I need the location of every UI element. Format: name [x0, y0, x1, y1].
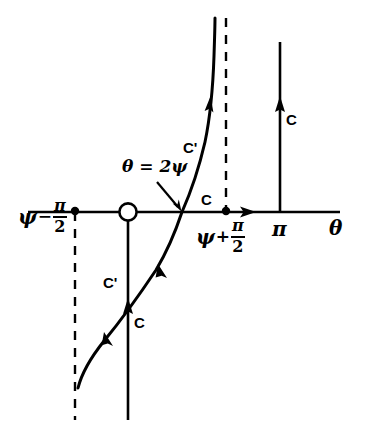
theta-equals-two-psi-label: θ = 2ψ [122, 158, 187, 175]
contour-curve-c-prime-upper [182, 18, 215, 212]
curve-label-c-prime-lower: C' [103, 275, 117, 290]
curve-label-c-middle-line: C [134, 315, 145, 330]
tick-base-psi-minus: ψ [18, 207, 37, 227]
theta-axis-label: θ [329, 218, 342, 238]
tick-label-psi-minus-half-pi: ψ− π 2 [18, 198, 67, 236]
curve-label-c-near-origin: C [201, 192, 212, 207]
tick-label-pi: π [272, 219, 287, 239]
tick-label-psi-plus-half-pi: ψ+ π 2 [196, 218, 245, 256]
pole-open-circle-marker [119, 203, 136, 220]
tick-dot-psi-plus-half-pi [222, 207, 230, 215]
contour-curve-c-prime-lower [78, 212, 182, 388]
tick-operator-minus: − [37, 208, 53, 225]
theta-equals-two-psi-leader-line [157, 182, 178, 207]
tick-operator-plus: + [215, 228, 231, 245]
tick-dot-psi-minus-half-pi [71, 207, 79, 215]
tick-fraction-half-pi-right: π 2 [231, 218, 245, 256]
tick-denominator-two-left: 2 [53, 218, 67, 236]
tick-base-psi-plus: ψ [196, 227, 215, 247]
tick-fraction-half-pi-left: π 2 [53, 198, 67, 236]
contour-diagram-figure: θ ψ− π 2 ψ+ π 2 π θ = 2ψ C' C C C' C [0, 0, 365, 429]
curve-label-c-prime-upper: C' [183, 140, 197, 155]
tick-numerator-pi-right: π [231, 218, 245, 238]
tick-denominator-two-right: 2 [231, 238, 245, 256]
curve-label-c-right-line: C [286, 112, 297, 127]
tick-numerator-pi-left: π [53, 198, 67, 218]
